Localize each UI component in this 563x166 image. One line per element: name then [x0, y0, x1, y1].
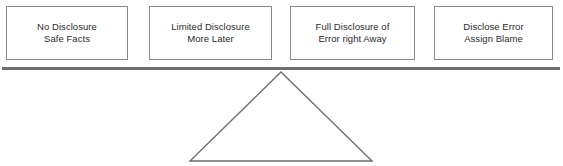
- option-box-limited-disclosure[interactable]: Limited Disclosure More Later: [149, 6, 272, 60]
- option-box-disclose-assign-blame[interactable]: Disclose Error Assign Blame: [434, 6, 553, 60]
- option-box-disclose-assign-blame-line-1: Disclose Error: [463, 21, 523, 33]
- option-box-full-disclosure-line-2: Error right Away: [318, 33, 386, 45]
- option-box-no-disclosure-line-1: No Disclosure: [37, 21, 97, 33]
- option-box-no-disclosure[interactable]: No Disclosure Safe Facts: [6, 6, 128, 60]
- option-box-no-disclosure-line-2: Safe Facts: [44, 33, 90, 45]
- disclosure-spectrum-diagram: No Disclosure Safe Facts Limited Disclos…: [0, 0, 563, 166]
- fulcrum-triangle: [185, 68, 379, 166]
- option-box-limited-disclosure-line-1: Limited Disclosure: [171, 21, 250, 33]
- fulcrum-triangle-svg: [185, 68, 379, 166]
- fulcrum-triangle-outline: [190, 72, 372, 161]
- option-box-limited-disclosure-line-2: More Later: [187, 33, 233, 45]
- option-box-full-disclosure-line-1: Full Disclosure of: [316, 21, 390, 33]
- option-box-disclose-assign-blame-line-2: Assign Blame: [464, 33, 523, 45]
- option-box-full-disclosure[interactable]: Full Disclosure of Error right Away: [290, 6, 415, 60]
